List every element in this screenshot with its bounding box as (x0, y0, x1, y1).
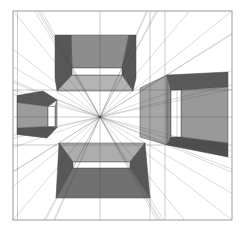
bottom-box (56, 143, 150, 198)
top-box-hole (72, 68, 122, 75)
right-box-top-face (167, 72, 228, 90)
one-point-perspective-drawing (0, 0, 241, 230)
left-box (17, 91, 57, 138)
right-box-hole (171, 90, 181, 137)
left-box-front-wall (17, 103, 48, 129)
perspective-drawing-page (0, 0, 241, 230)
bottom-box-hole (73, 162, 130, 168)
left-box-hole (48, 107, 55, 127)
